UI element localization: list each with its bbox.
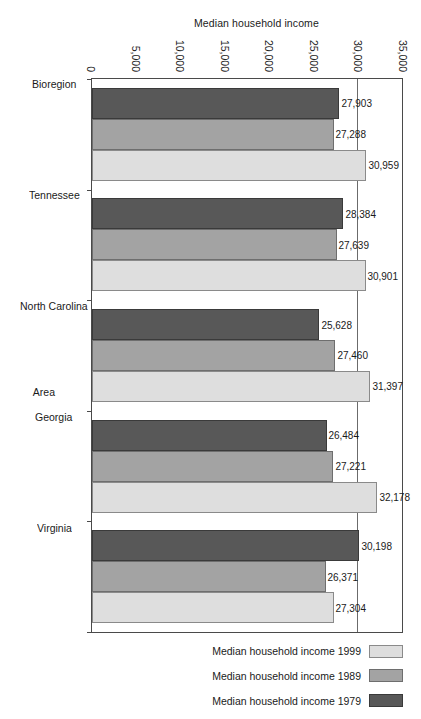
bar-group-bars: 30,19826,37127,304 <box>92 530 402 623</box>
bar-groups: 27,90327,28830,95928,38427,63930,90125,6… <box>92 79 402 632</box>
bar[interactable]: 32,178 <box>92 482 377 513</box>
y-axis-tick-label: 15,000 <box>219 40 231 72</box>
bar[interactable]: 26,371 <box>92 561 326 592</box>
bar-value-label: 27,221 <box>335 461 366 472</box>
bar-slot: 27,304 <box>92 592 402 623</box>
bar[interactable]: 27,304 <box>92 592 334 623</box>
bar-value-label: 27,460 <box>337 350 368 361</box>
legend-item[interactable]: Median household income 1999 <box>212 645 403 658</box>
category-label: Bioregion <box>23 78 85 189</box>
bar-slot: 26,371 <box>92 561 402 592</box>
bar[interactable]: 27,288 <box>92 119 334 150</box>
bar-group-bars: 27,90327,28830,959 <box>92 88 402 181</box>
legend-swatch <box>369 669 403 682</box>
plot-inner: 27,90327,28830,95928,38427,63930,90125,6… <box>92 79 402 632</box>
bar-value-label: 30,959 <box>368 160 399 171</box>
bar[interactable]: 27,460 <box>92 340 335 371</box>
bar-value-label: 27,639 <box>339 239 370 250</box>
category-label: North Carolina <box>23 300 85 411</box>
bar-slot: 32,178 <box>92 482 402 513</box>
bar-value-label: 32,178 <box>379 492 410 503</box>
bar-value-label: 31,397 <box>372 381 403 392</box>
bar[interactable]: 27,221 <box>92 451 333 482</box>
bar-group-bars: 28,38427,63930,901 <box>92 198 402 291</box>
bar-group: 26,48427,22132,178 <box>92 411 402 522</box>
category-axis-tick <box>87 190 92 191</box>
y-axis-tick-label: 10,000 <box>174 40 186 72</box>
y-axis-tick-label: 30,000 <box>352 40 364 72</box>
category-axis-ticks <box>87 79 92 632</box>
legend-item[interactable]: Median household income 1979 <box>212 694 403 707</box>
bar-slot: 28,384 <box>92 198 402 229</box>
category-axis-tick <box>87 521 92 522</box>
bar[interactable]: 31,397 <box>92 371 370 402</box>
y-axis-tick-label: 25,000 <box>308 40 320 72</box>
bar[interactable]: 28,384 <box>92 198 343 229</box>
bar-slot: 30,901 <box>92 260 402 291</box>
y-axis-tick-label: 5,000 <box>130 46 142 72</box>
bar-slot: 26,484 <box>92 420 402 451</box>
category-label: Virginia <box>23 522 85 633</box>
bar[interactable]: 26,484 <box>92 420 327 451</box>
bar-slot: 27,903 <box>92 88 402 119</box>
bar-group: 25,62827,46031,397 <box>92 300 402 411</box>
bar-slot: 27,639 <box>92 229 402 260</box>
rotated-figure-wrapper: Median household income 05,00010,00015,0… <box>0 0 421 719</box>
bar[interactable]: 25,628 <box>92 309 319 340</box>
bar-value-label: 30,198 <box>361 540 392 551</box>
bar-chart-figure: Median household income 05,00010,00015,0… <box>0 0 421 719</box>
category-label: Georgia <box>23 411 85 522</box>
legend-item[interactable]: Median household income 1989 <box>212 669 403 682</box>
legend-label: Median household income 1989 <box>212 670 361 682</box>
plot-area: 27,90327,28830,95928,38427,63930,90125,6… <box>91 78 403 633</box>
bar-value-label: 27,304 <box>336 602 367 613</box>
bar-group-bars: 26,48427,22132,178 <box>92 420 402 513</box>
category-labels: BioregionTennesseeNorth CarolinaGeorgiaV… <box>23 78 85 633</box>
bar-slot: 27,288 <box>92 119 402 150</box>
bar-value-label: 26,371 <box>328 571 359 582</box>
y-axis-tick-label: 35,000 <box>397 40 409 72</box>
chart-legend: Median household income 1979Median house… <box>73 639 403 713</box>
bar-group-bars: 25,62827,46031,397 <box>92 309 402 402</box>
bar-value-label: 27,288 <box>336 129 367 140</box>
category-axis-tick <box>87 411 92 412</box>
category-axis-tick <box>87 632 92 633</box>
bar-value-label: 26,484 <box>329 430 360 441</box>
bar-value-label: 27,903 <box>341 98 372 109</box>
bar-slot: 27,221 <box>92 451 402 482</box>
bar[interactable]: 27,639 <box>92 229 337 260</box>
bar-group: 28,38427,63930,901 <box>92 190 402 301</box>
bar[interactable]: 30,198 <box>92 530 359 561</box>
bar-value-label: 30,901 <box>368 270 399 281</box>
category-label: Tennessee <box>23 189 85 300</box>
category-axis-tick <box>87 79 92 80</box>
legend-label: Median household income 1979 <box>212 695 361 707</box>
bar-value-label: 28,384 <box>345 208 376 219</box>
bar[interactable]: 30,959 <box>92 150 366 181</box>
legend-swatch <box>369 694 403 707</box>
bar-group: 30,19826,37127,304 <box>92 521 402 632</box>
bar-slot: 27,460 <box>92 340 402 371</box>
y-axis-tick-label: 20,000 <box>263 40 275 72</box>
bar-slot: 30,198 <box>92 530 402 561</box>
bar[interactable]: 30,901 <box>92 260 366 291</box>
legend-swatch <box>369 645 403 658</box>
bar-value-label: 25,628 <box>321 319 352 330</box>
y-axis-tick-label: 0 <box>85 66 97 72</box>
y-axis-tick-labels: 05,00010,00015,00020,00025,00030,00035,0… <box>91 30 403 76</box>
legend-label: Median household income 1999 <box>212 645 361 657</box>
bar-slot: 31,397 <box>92 371 402 402</box>
bar-slot: 25,628 <box>92 309 402 340</box>
bar[interactable]: 27,903 <box>92 88 339 119</box>
bar-slot: 30,959 <box>92 150 402 181</box>
bar-group: 27,90327,28830,959 <box>92 79 402 190</box>
